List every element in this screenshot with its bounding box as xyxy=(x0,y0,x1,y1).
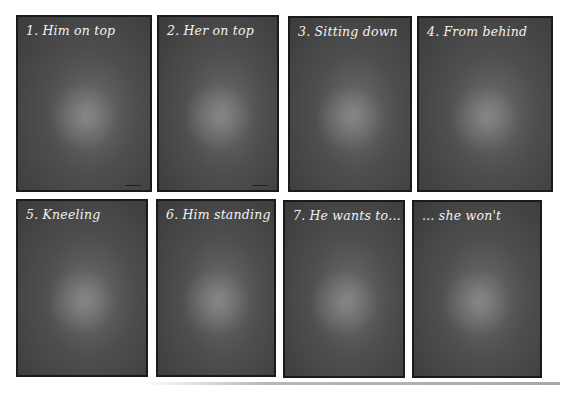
comic-panel-4: 4. From behind xyxy=(417,16,553,192)
illustration-placeholder xyxy=(315,83,385,153)
comic-panel-1: 1. Him on top xyxy=(16,15,152,192)
illustration-placeholder xyxy=(442,268,512,338)
comic-panel-3: 3. Sitting down xyxy=(288,16,412,192)
panel-caption: 3. Sitting down xyxy=(298,24,398,39)
panel-caption: 2. Her on top xyxy=(167,23,254,38)
illustration-placeholder xyxy=(183,82,253,152)
illustration-placeholder xyxy=(181,267,251,337)
panel-caption: … she won't xyxy=(422,208,501,223)
illustration-placeholder xyxy=(450,83,520,153)
comic-panel-8: … she won't xyxy=(412,200,542,378)
illustration-placeholder xyxy=(47,267,117,337)
panel-caption: 6. Him standing xyxy=(166,207,271,222)
comic-panel-2: 2. Her on top xyxy=(157,15,279,192)
illustration-placeholder xyxy=(309,268,379,338)
panel-caption: 4. From behind xyxy=(427,24,527,39)
panel-caption: 7. He wants to… xyxy=(293,208,401,223)
artist-signature xyxy=(252,181,270,186)
page-divider xyxy=(140,382,560,385)
artist-signature xyxy=(125,181,143,186)
illustration-placeholder xyxy=(49,82,119,152)
comic-panel-6: 6. Him standing xyxy=(156,199,276,377)
panel-caption: 5. Kneeling xyxy=(26,207,100,222)
panel-caption: 1. Him on top xyxy=(26,23,115,38)
comic-panel-5: 5. Kneeling xyxy=(16,199,148,377)
comic-panel-7: 7. He wants to… xyxy=(283,200,405,378)
